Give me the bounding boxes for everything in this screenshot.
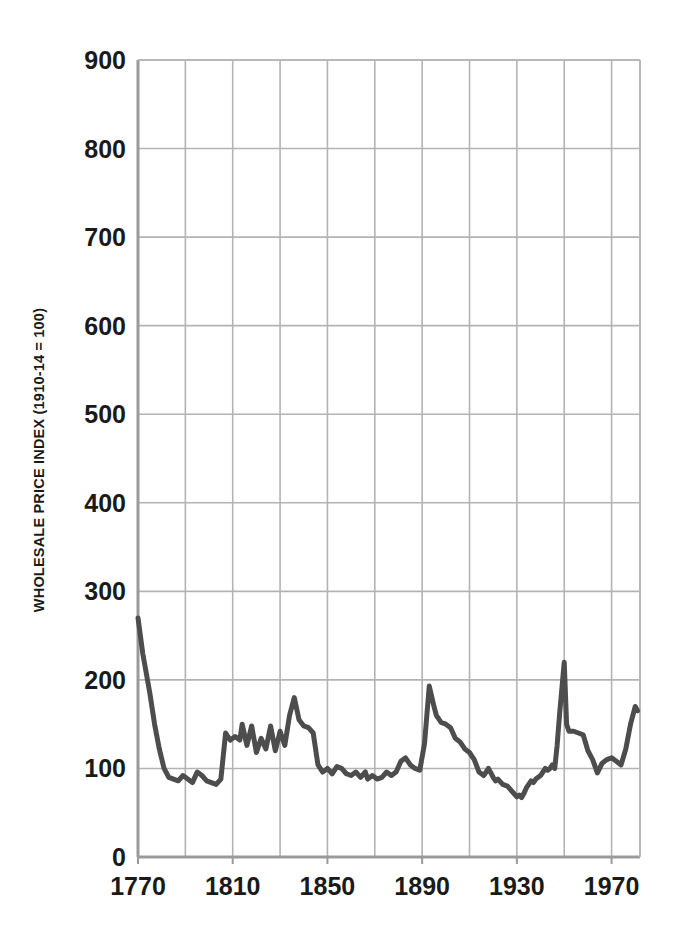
y-tick-label-0: 0 [112, 843, 126, 871]
y-tick-label-400: 400 [84, 489, 126, 517]
x-tick-label-1930: 1930 [489, 872, 545, 900]
wholesale-price-index-line-chart: 0100200300400500600700800900 17701810185… [0, 0, 678, 936]
chart-figure: 0100200300400500600700800900 17701810185… [0, 0, 678, 936]
y-tick-label-600: 600 [84, 312, 126, 340]
x-tick-label-1770: 1770 [110, 872, 166, 900]
x-tick-label-1850: 1850 [300, 872, 356, 900]
x-tick-label-1890: 1890 [394, 872, 450, 900]
y-axis-title: WHOLESALE PRICE INDEX (1910-14 = 100) [31, 308, 47, 612]
y-tick-label-100: 100 [84, 754, 126, 782]
x-tick-label-1970: 1970 [584, 872, 640, 900]
y-tick-label-200: 200 [84, 666, 126, 694]
y-tick-label-900: 900 [84, 46, 126, 74]
y-tick-label-300: 300 [84, 577, 126, 605]
y-tick-label-800: 800 [84, 135, 126, 163]
x-tick-label-1810: 1810 [205, 872, 261, 900]
y-tick-label-500: 500 [84, 400, 126, 428]
y-tick-label-700: 700 [84, 223, 126, 251]
